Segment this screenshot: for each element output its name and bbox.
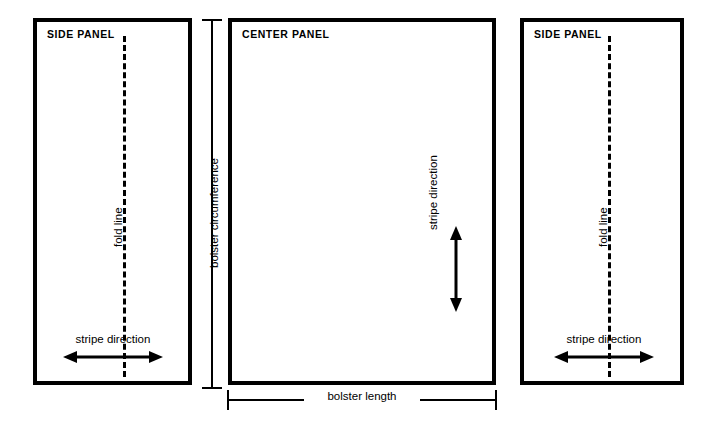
fold-line-label-left: fold line — [113, 207, 125, 247]
dimension-tick-right — [495, 390, 497, 410]
stripe-direction-label-center: stripe direction — [428, 155, 440, 230]
fold-line-label-right: fold line — [598, 207, 610, 247]
stripe-direction-group-right: stripe direction — [540, 334, 668, 364]
dimension-label-circumference: bolster circumference — [209, 158, 221, 268]
stripe-direction-label-left: stripe direction — [49, 334, 177, 346]
double-headed-horizontal-arrow-icon-right — [554, 350, 654, 364]
double-headed-vertical-arrow-icon-center — [449, 226, 463, 312]
center-panel: CENTER PANEL — [228, 18, 496, 385]
panel-title-right: SIDE PANEL — [534, 29, 602, 40]
side-panel-right: SIDE PANEL fold line stripe direction — [520, 18, 684, 385]
dimension-tick-bottom — [202, 387, 222, 389]
panel-title-left: SIDE PANEL — [47, 29, 115, 40]
dimension-stem-right — [420, 399, 496, 401]
side-panel-left: SIDE PANEL fold line stripe direction — [33, 18, 192, 385]
panel-title-center: CENTER PANEL — [242, 29, 330, 40]
dimension-line-length: bolster length — [226, 388, 498, 412]
diagram-canvas: SIDE PANEL fold line stripe direction bo… — [0, 0, 716, 427]
stripe-direction-group-left: stripe direction — [49, 334, 177, 364]
stripe-direction-label-right: stripe direction — [540, 334, 668, 346]
double-headed-horizontal-arrow-icon-left — [63, 350, 163, 364]
